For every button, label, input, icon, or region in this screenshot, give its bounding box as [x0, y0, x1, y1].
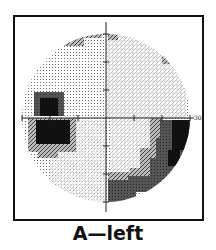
axis-label-30: 30 [194, 114, 202, 121]
visual-field-plot [0, 0, 216, 250]
inferior-nasal-step-inner [172, 120, 190, 150]
superior-arcuate-defect-left [74, 30, 102, 38]
blind-spot-lower-fringe [38, 150, 58, 158]
superior-peripheral-spot-right [162, 52, 174, 64]
figure-caption: A—left [0, 222, 216, 244]
superior-arcuate-defect-left [64, 42, 84, 46]
inferior-nasal-step-inner [168, 150, 180, 166]
inferior-central-dense [108, 180, 136, 202]
blind-spot-lower [36, 120, 70, 144]
blind-spot-core-upper [40, 98, 58, 116]
superior-spot-right [108, 28, 118, 40]
